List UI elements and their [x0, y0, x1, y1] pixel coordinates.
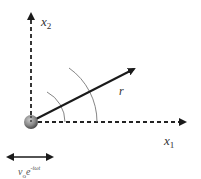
diagram-canvas — [0, 0, 201, 179]
vector-r-label: r — [119, 85, 124, 97]
x1-axis-label: x1 — [164, 134, 174, 150]
oscillation-velocity-label: voe-iωt — [18, 165, 40, 179]
x2-axis-label: x2 — [41, 15, 51, 31]
inner-angle-arc — [47, 92, 65, 122]
